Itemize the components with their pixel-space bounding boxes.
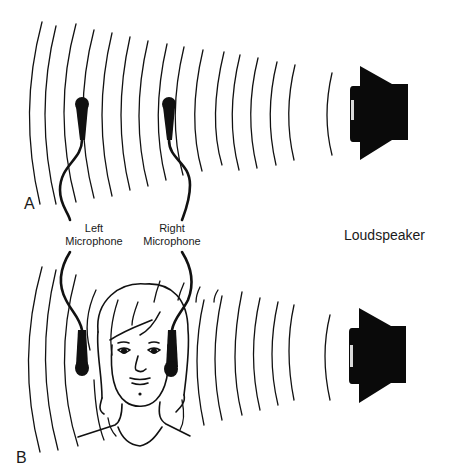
left-microphone-label-line2: Microphone (58, 235, 130, 248)
left-microphone-label: Left Microphone (58, 222, 130, 248)
panel-a-sound-waves (29, 22, 332, 204)
panel-b-sound-waves (28, 267, 330, 452)
right-microphone-label: Right Microphone (136, 222, 208, 248)
panel-a-right-microphone (162, 97, 190, 220)
right-microphone-label-line1: Right (136, 222, 208, 235)
panel-b-label: B (16, 450, 27, 466)
left-microphone-label-line1: Left (58, 222, 130, 235)
panel-b-left-microphone (61, 252, 89, 376)
diagram-figure: A B Left Microphone Right Microphone Lou… (0, 0, 450, 469)
loudspeaker-label: Loudspeaker (344, 227, 425, 243)
panel-b-loudspeaker-icon (349, 308, 406, 403)
panel-a-loudspeaker-icon (350, 66, 408, 160)
right-microphone-label-line2: Microphone (136, 235, 208, 248)
panel-a-label: A (24, 196, 35, 212)
